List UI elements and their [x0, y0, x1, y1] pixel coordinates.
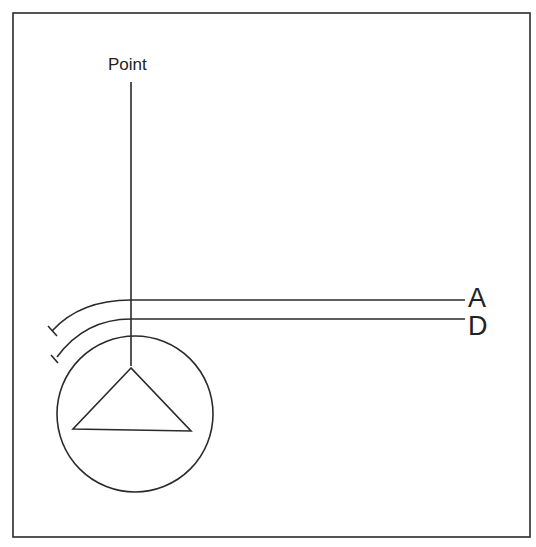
line-a: [52, 300, 465, 331]
label-d: D: [468, 313, 488, 340]
triangle-symbol: [73, 368, 191, 431]
frame-border: [13, 13, 530, 537]
label-a: A: [468, 285, 486, 312]
diagram-canvas: [0, 0, 536, 547]
point-label: Point: [108, 56, 147, 73]
circle-symbol: [57, 336, 213, 492]
